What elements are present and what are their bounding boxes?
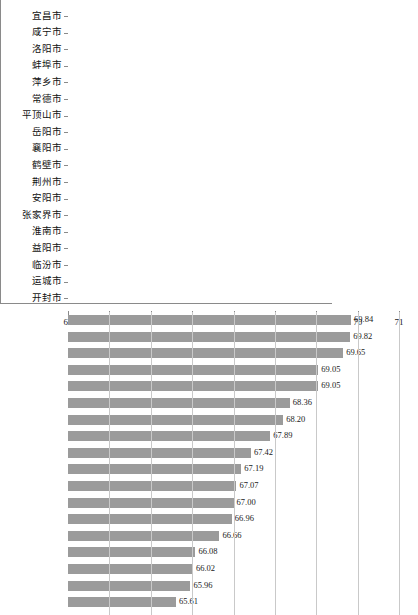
bar <box>68 547 195 557</box>
bar <box>68 365 318 375</box>
y-tick-mark <box>64 16 68 17</box>
bar <box>68 448 251 458</box>
bar <box>68 581 190 591</box>
bar <box>68 431 270 441</box>
category-label: 益阳市 <box>0 242 62 254</box>
gridline <box>109 312 110 615</box>
bar-row: 67.00 <box>0 495 331 512</box>
gridline <box>358 312 359 615</box>
category-label: 鹤壁市 <box>0 159 62 171</box>
bar <box>68 398 290 408</box>
bar-value-label: 68.20 <box>286 412 305 427</box>
y-tick-mark <box>64 282 68 283</box>
bar-row: 67.89 <box>0 428 331 445</box>
category-label: 襄阳市 <box>0 142 62 154</box>
bar-value-label: 67.19 <box>244 461 263 476</box>
bar-value-label: 65.61 <box>179 594 198 609</box>
bar-row: 65.96 <box>0 578 331 595</box>
bar <box>68 597 176 607</box>
gridline <box>151 312 152 615</box>
bar-value-label: 67.00 <box>237 495 256 510</box>
category-label: 洛阳市 <box>0 43 62 55</box>
bar-value-label: 68.36 <box>293 395 312 410</box>
y-tick-mark <box>64 149 68 150</box>
bar-value-label: 69.05 <box>321 362 340 377</box>
bar <box>68 531 219 541</box>
category-label: 张家界市 <box>0 209 62 221</box>
bar <box>68 564 193 574</box>
bar <box>68 381 318 391</box>
bar-row: 69.65 <box>0 345 331 362</box>
category-label: 平顶山市 <box>0 109 62 121</box>
category-label: 咸宁市 <box>0 26 62 38</box>
bar-row: 66.02 <box>0 561 331 578</box>
y-tick-mark <box>64 132 68 133</box>
bar-value-label: 66.08 <box>198 544 217 559</box>
bar-row: 69.84 <box>0 312 331 329</box>
bar-row: 67.42 <box>0 445 331 462</box>
bar-value-label: 69.65 <box>346 345 365 360</box>
y-tick-mark <box>64 66 68 67</box>
y-tick-mark <box>64 165 68 166</box>
category-label: 萍乡市 <box>0 76 62 88</box>
y-tick-mark <box>64 215 68 216</box>
bar-row: 66.66 <box>0 528 331 545</box>
y-tick-mark <box>64 49 68 50</box>
bar-value-label: 65.96 <box>193 578 212 593</box>
y-tick-mark <box>64 99 68 100</box>
category-label: 临汾市 <box>0 259 62 271</box>
bar-value-label: 66.02 <box>196 561 215 576</box>
bar-row: 69.82 <box>0 329 331 346</box>
bar <box>68 464 241 474</box>
bar-value-label: 67.42 <box>254 445 273 460</box>
bar-row: 68.36 <box>0 395 331 412</box>
gridline <box>316 312 317 615</box>
bar-row: 67.19 <box>0 461 331 478</box>
y-tick-mark <box>64 116 68 117</box>
bar-row: 67.07 <box>0 478 331 495</box>
bar-row: 69.05 <box>0 378 331 395</box>
gridline <box>399 312 400 615</box>
bar-row: 68.20 <box>0 412 331 429</box>
category-label: 运城市 <box>0 275 62 287</box>
y-tick-mark <box>64 182 68 183</box>
bar-value-label: 67.07 <box>239 478 258 493</box>
gridline <box>192 312 193 615</box>
bar-value-label: 66.66 <box>222 528 241 543</box>
bar-row: 66.96 <box>0 511 331 528</box>
category-label: 宜昌市 <box>0 10 62 22</box>
category-label: 安阳市 <box>0 192 62 204</box>
bar-value-label: 69.82 <box>353 329 372 344</box>
category-label: 蚌埠市 <box>0 59 62 71</box>
gridline <box>275 312 276 615</box>
y-tick-mark <box>64 82 68 83</box>
category-label: 淮南市 <box>0 225 62 237</box>
category-label: 荆州市 <box>0 176 62 188</box>
bar-row: 65.61 <box>0 594 331 611</box>
y-tick-mark <box>64 298 68 299</box>
y-tick-mark <box>64 248 68 249</box>
y-tick-mark <box>64 33 68 34</box>
bar-value-label: 66.96 <box>235 511 254 526</box>
bar <box>68 315 351 325</box>
bar-value-label: 67.89 <box>273 428 292 443</box>
y-tick-mark <box>64 265 68 266</box>
bar <box>68 481 236 491</box>
y-tick-mark <box>64 199 68 200</box>
y-tick-mark <box>64 232 68 233</box>
gridline <box>234 312 235 615</box>
category-label: 岳阳市 <box>0 126 62 138</box>
category-label: 开封市 <box>0 292 62 304</box>
category-label: 常德市 <box>0 93 62 105</box>
bar-row: 69.05 <box>0 362 331 379</box>
bar-value-label: 69.05 <box>321 378 340 393</box>
bar <box>68 415 283 425</box>
bar-row: 66.08 <box>0 544 331 561</box>
